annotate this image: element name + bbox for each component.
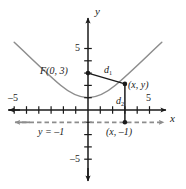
focus-point <box>86 71 91 76</box>
y-tick-label-neg5: –5 <box>70 153 80 164</box>
parabola-plot <box>0 0 186 189</box>
y-tick-label-5: 5 <box>75 42 80 53</box>
figure-canvas: y x 5 –5 –5 5 F(0, 3) (x, y) (x, –1) y =… <box>0 0 186 189</box>
x-axis-label: x <box>170 112 175 124</box>
parabola-point <box>123 82 128 87</box>
distance-d2-label: d2 <box>116 95 124 107</box>
directrix-foot-label: (x, –1) <box>106 126 132 137</box>
parabola-point-label: (x, y) <box>128 79 149 90</box>
x-tick-label-5: 5 <box>146 92 151 103</box>
d2-subscript: 2 <box>121 100 124 107</box>
directrix-foot-point <box>123 120 128 125</box>
directrix-label: y = –1 <box>38 126 64 137</box>
d1-subscript: 1 <box>109 69 112 76</box>
y-axis-label: y <box>95 5 100 17</box>
distance-d1-label: d1 <box>104 64 112 76</box>
x-tick-label-neg5: –5 <box>8 92 18 103</box>
focus-label: F(0, 3) <box>40 65 68 76</box>
